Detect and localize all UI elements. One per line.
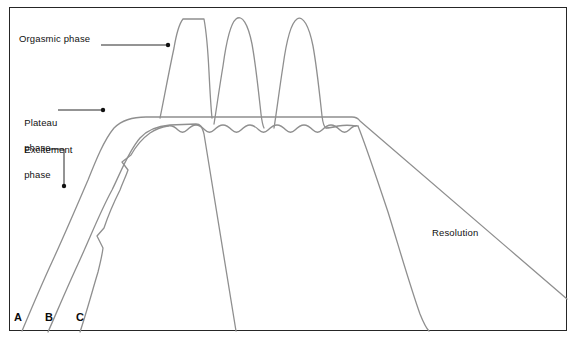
diagram-figure: Orgasmic phase Plateau phase Excitement … [0,0,578,346]
curve-b-path [48,124,236,332]
curve-c-resolution-path [358,126,429,331]
orgasmic-peak-1-path [160,19,212,118]
orgasmic-phase-leader-dot [166,43,170,47]
curve-label-a: A [14,311,22,323]
label-excitement-phase-line1: Excitement [24,144,73,155]
label-orgasmic-phase: Orgasmic phase [19,33,90,46]
label-excitement-phase: Excitement phase [13,131,73,194]
orgasmic-peak-2-path [214,18,264,128]
curve-label-b: B [45,311,53,323]
label-resolution: Resolution [432,227,478,240]
plateau-phase-leader-dot [101,108,105,112]
orgasmic-peak-3-path [274,18,326,128]
curve-label-c: C [76,311,84,323]
label-plateau-phase-line1: Plateau [24,117,57,128]
label-excitement-phase-line2: phase [24,169,51,180]
response-curves-plot [0,0,578,346]
curve-a-path [22,117,567,331]
